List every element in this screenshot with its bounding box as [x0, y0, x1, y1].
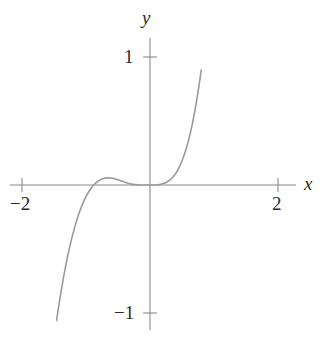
- plot-canvas: [0, 0, 326, 345]
- tick-label-y-neg1: −1: [114, 303, 134, 322]
- x-axis-label: x: [304, 174, 312, 193]
- y-axis-label: y: [142, 8, 150, 27]
- tick-label-x-pos2: 2: [272, 194, 282, 213]
- tick-label-x-neg2: −2: [10, 194, 30, 213]
- function-curve: [57, 70, 202, 320]
- axes-group: [10, 38, 296, 330]
- tick-label-y-pos1: 1: [124, 47, 134, 66]
- function-graph-figure: y x −2 2 1 −1: [0, 0, 326, 345]
